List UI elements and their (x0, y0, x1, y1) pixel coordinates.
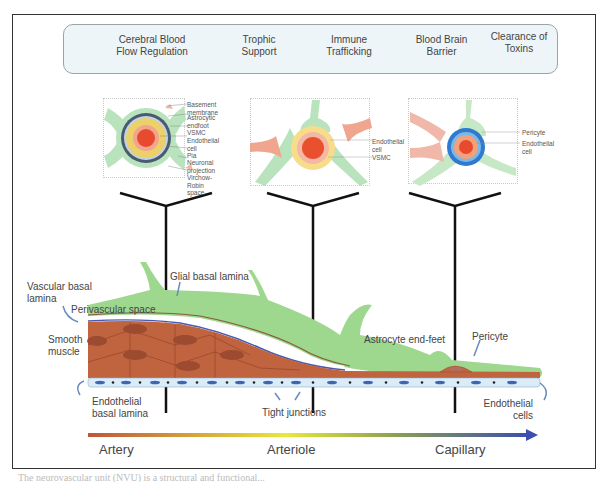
arteriole-cross-section-illustration (250, 100, 372, 186)
label-endothelial-cell: Endothelial cell (187, 137, 227, 152)
label-glial-basal-lamina: Glial basal lamina (170, 271, 249, 283)
figure-caption: The neurovascular unit (NVU) is a struct… (0, 472, 605, 482)
axis-label-artery: Artery (99, 442, 134, 457)
axis-label-capillary: Capillary (435, 442, 486, 457)
label-tight-junctions: Tight junctions (262, 407, 326, 419)
label-smooth-muscle: Smooth muscle (48, 334, 88, 358)
label-virchow-robin-space: Virchow-Robin space (187, 174, 222, 197)
label-astrocytic-endfoot: Astrocytic endfoot (187, 114, 227, 129)
label-endothelial-cell-arteriole: Endothelial cell (372, 138, 408, 153)
label-perivascular-space: Perivascular space (71, 304, 155, 316)
vessel-type-axis (88, 433, 528, 437)
label-endothelial-basal-lamina: Endothelial basal lamina (92, 396, 162, 420)
arrow-head-icon (526, 429, 538, 441)
label-astrocyte-end-feet: Astrocyte end-feet (364, 334, 445, 346)
label-neuronal-projection: Neuronal projection (187, 159, 227, 174)
label-endothelial-cells: Endothelial cells (478, 398, 533, 422)
label-pericyte-capillary: Pericyte (522, 129, 562, 137)
capillary-cross-section-illustration (410, 100, 520, 186)
axis-label-arteriole: Arteriole (267, 442, 315, 457)
label-vascular-basal-lamina: Vascular basal lamina (27, 281, 97, 305)
label-endothelial-cell-capillary: Endothelial cell (522, 140, 562, 155)
artery-cross-section-illustration (104, 104, 193, 170)
label-pericyte: Pericyte (472, 331, 508, 343)
label-vsmc-arteriole: VSMC (372, 154, 408, 162)
label-vsmc: VSMC (187, 129, 227, 137)
